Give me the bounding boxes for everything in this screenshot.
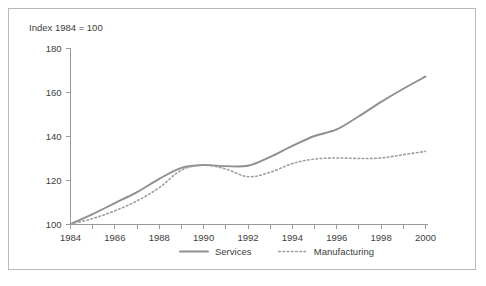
y-tick-label: 160	[46, 87, 62, 98]
series-line-manufacturing	[71, 151, 426, 224]
legend-label-services: Services	[215, 246, 252, 257]
x-tick-label: 2000	[415, 232, 436, 243]
x-tick-label: 1988	[149, 232, 170, 243]
y-axis-tick-labels: 100120140160180	[46, 43, 62, 230]
chart-title: Index 1984 = 100	[29, 22, 103, 33]
x-tick-label: 1998	[371, 232, 392, 243]
x-tick-label: 1986	[104, 232, 125, 243]
chart-legend: ServicesManufacturing	[180, 246, 374, 257]
series-line-services	[71, 77, 426, 224]
x-axis-tick-labels: 198419861988199019921994199619982000	[60, 232, 436, 243]
figure-container: Index 1984 = 100 100120140160180 1984198…	[0, 0, 486, 286]
x-tick-label: 1990	[193, 232, 214, 243]
y-axis-ticks	[66, 49, 71, 225]
y-tick-label: 100	[46, 219, 62, 230]
x-tick-label: 1996	[326, 232, 347, 243]
y-tick-label: 180	[46, 43, 62, 54]
legend-label-manufacturing: Manufacturing	[314, 246, 374, 257]
data-series-group	[71, 77, 426, 224]
x-tick-label: 1994	[282, 232, 303, 243]
y-tick-label: 140	[46, 131, 62, 142]
x-tick-label: 1992	[237, 232, 258, 243]
line-chart: Index 1984 = 100 100120140160180 1984198…	[0, 0, 486, 286]
x-tick-label: 1984	[60, 232, 81, 243]
y-tick-label: 120	[46, 175, 62, 186]
